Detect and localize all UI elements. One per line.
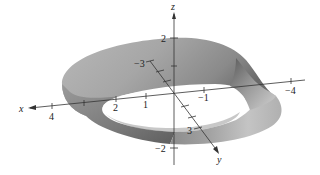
x-tick-neg4: −4 [285,85,296,96]
z-tick-neg2: −2 [155,143,166,154]
mobius-strip-figure: z 2 −2 x 4 2 1 −1 −4 y −3 3 [0,0,320,175]
x-tick-neg1: −1 [198,92,209,103]
y-tick-neg3: −3 [134,58,145,69]
x-axis-label: x [18,103,24,114]
z-axis-label: z [170,1,175,12]
x-tick-2: 2 [113,102,118,113]
x-tick-4: 4 [49,111,54,122]
y-axis-label: y [216,154,222,165]
y-tick-3: 3 [187,125,192,136]
z-tick-2: 2 [161,33,166,44]
x-tick-1: 1 [143,99,148,110]
